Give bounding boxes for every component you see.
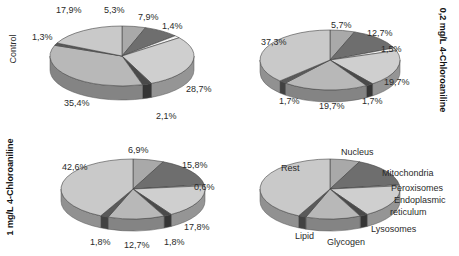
slice-label: 1,7%: [362, 96, 383, 106]
slice-label: 1,7%: [279, 96, 300, 106]
slice-label: Glycogen: [327, 237, 365, 247]
slice-label: 19,7%: [319, 101, 345, 111]
slice-label: 37,3%: [261, 37, 287, 47]
slice-label: 1,5%: [381, 44, 402, 54]
slice-label: 12,7%: [367, 28, 393, 38]
slice-label: 0,6%: [194, 182, 215, 192]
slice-label: 28,7%: [186, 84, 212, 94]
slice-label: 17,8%: [184, 222, 210, 232]
row-label-0-2-mg: 0,2 mg/L 4-Chloroaniline: [438, 8, 448, 112]
slice-label: 2,1%: [156, 111, 177, 121]
slice-label: 19,7%: [384, 77, 410, 87]
slice-label: Lipid: [295, 231, 314, 241]
slice-label: Rest: [281, 163, 300, 173]
slice-label: Nucleus: [341, 147, 374, 157]
slice-side-lysosomes: [360, 214, 367, 228]
row-label-control: Control: [8, 34, 18, 63]
slice-label: 15,8%: [182, 160, 208, 170]
slice-label: 42,6%: [62, 162, 88, 172]
slice-label: 1,8%: [90, 237, 111, 247]
slice-label: Endoplasmic: [394, 195, 446, 205]
slice-label: Lysosomes: [371, 224, 416, 234]
slice-label: 7,9%: [138, 12, 159, 22]
slice-label: 5,7%: [331, 20, 352, 30]
slice-label: 17,9%: [56, 5, 82, 15]
row-label-1-mg: 1 mg/L 4-Chloroaniline: [5, 139, 15, 236]
slice-side-lipid: [299, 216, 306, 229]
slice-label: reticulum: [390, 207, 427, 217]
slice-label: Mitochondria: [382, 168, 434, 178]
slice-label: 6,9%: [128, 145, 149, 155]
slice-label: 1,3%: [32, 32, 53, 42]
slice-label: Peroxisomes: [391, 183, 443, 193]
slice-label: 5,3%: [104, 5, 125, 15]
slice-label: 12,7%: [124, 240, 150, 250]
slice-label: 1,4%: [162, 21, 183, 31]
slice-label: 1,8%: [164, 237, 185, 247]
pie-chart-legend: [0, 0, 459, 256]
slice-label: 35,4%: [64, 98, 90, 108]
